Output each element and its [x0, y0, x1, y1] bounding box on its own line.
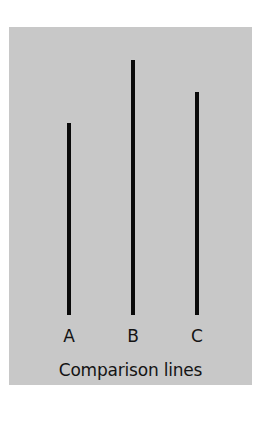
- comparison-line-c: [195, 92, 199, 315]
- line-label-c: C: [182, 328, 212, 345]
- line-label-a: A: [54, 328, 84, 345]
- comparison-line-a: [67, 123, 71, 315]
- figure-caption: Comparison lines: [9, 360, 252, 380]
- line-label-b: B: [118, 328, 148, 345]
- comparison-line-b: [131, 60, 135, 315]
